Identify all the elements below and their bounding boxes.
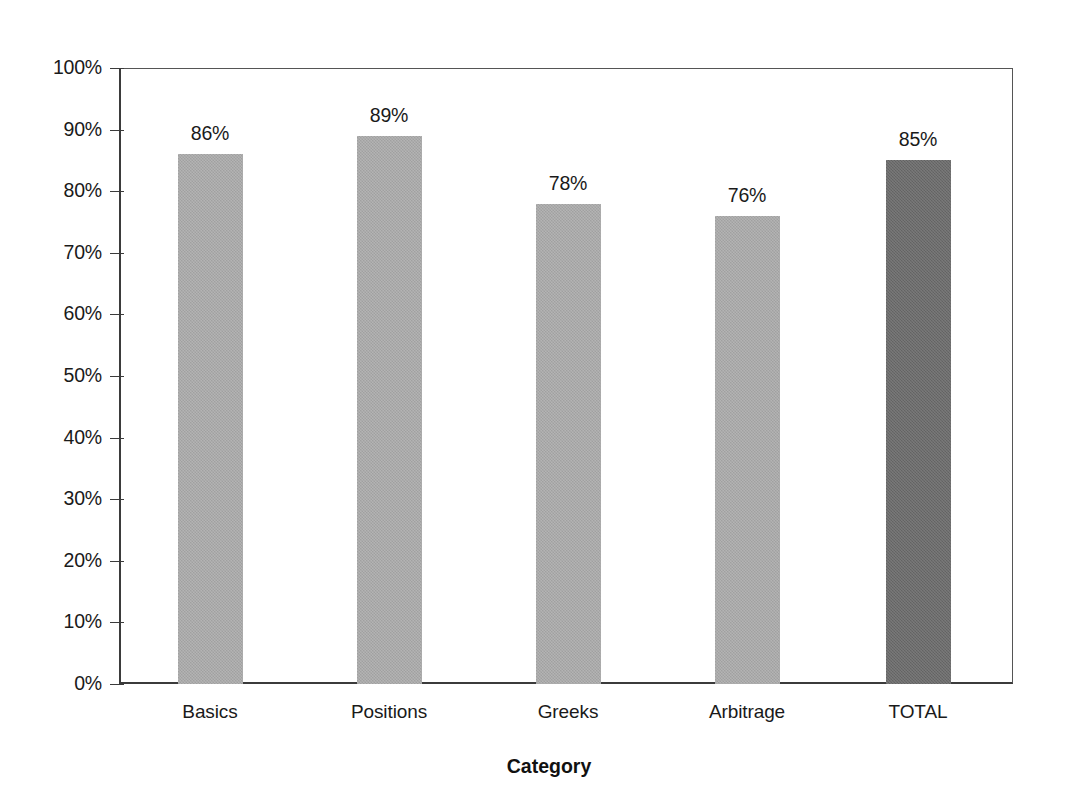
bar-total (886, 160, 951, 684)
bar-value-label-arbitrage: 76% (687, 186, 807, 206)
y-axis-tick-label: 0% (36, 674, 102, 694)
y-axis-tick-label: 40% (36, 428, 102, 448)
bar-greeks (536, 204, 601, 684)
bar-chart: 0%10%20%30%40%50%60%70%80%90%100% 86%Bas… (0, 0, 1071, 812)
y-axis-tick-mark (110, 130, 124, 131)
bar-basics (178, 154, 243, 684)
bar-value-label-positions: 89% (329, 106, 449, 126)
x-axis-title: Category (449, 757, 649, 777)
y-axis-tick-mark (110, 438, 124, 439)
y-axis-tick-mark (110, 376, 124, 377)
y-axis-tick-label: 70% (36, 243, 102, 263)
y-axis-tick-label: 30% (36, 489, 102, 509)
y-axis-tick-mark (110, 622, 124, 623)
y-axis-tick-mark (110, 253, 124, 254)
y-axis-tick-label: 80% (36, 181, 102, 201)
bar-arbitrage (715, 216, 780, 684)
y-axis-tick-mark (110, 68, 124, 69)
x-axis-label-total: TOTAL (838, 702, 998, 721)
y-axis-tick-mark (110, 499, 124, 500)
x-axis-label-basics: Basics (130, 702, 290, 721)
y-axis-tick-label: 10% (36, 612, 102, 632)
y-axis-tick-mark (110, 191, 124, 192)
y-axis-tick-label: 20% (36, 551, 102, 571)
y-axis-tick-label: 50% (36, 366, 102, 386)
x-axis-label-greeks: Greeks (488, 702, 648, 721)
y-axis-tick-mark (110, 314, 124, 315)
bar-value-label-greeks: 78% (508, 174, 628, 194)
x-axis-label-positions: Positions (309, 702, 469, 721)
y-axis-tick-label: 60% (36, 304, 102, 324)
bar-value-label-total: 85% (858, 130, 978, 150)
bar-value-label-basics: 86% (150, 124, 270, 144)
bar-positions (357, 136, 422, 684)
x-axis-label-arbitrage: Arbitrage (667, 702, 827, 721)
y-axis-tick-label: 90% (36, 120, 102, 140)
y-axis-tick-label: 100% (36, 58, 102, 78)
y-axis-tick-mark (110, 561, 124, 562)
y-axis-tick-mark (110, 684, 124, 685)
